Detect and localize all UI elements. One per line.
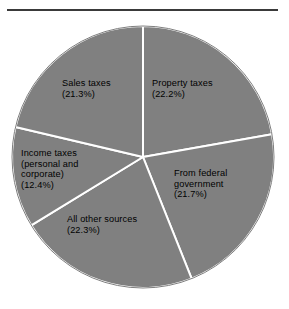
slice-label-all-other-sources: All other sources (22.3%) (67, 214, 137, 235)
slice-label-from-federal-government: From federal government (21.7%) (174, 168, 227, 200)
pie-chart-figure: Property taxes (22.2%) Sales taxes (21.3… (0, 0, 289, 309)
chart-plot-area: Property taxes (22.2%) Sales taxes (21.3… (0, 0, 289, 309)
slice-label-property-taxes: Property taxes (22.2%) (152, 78, 213, 99)
slice-label-sales-taxes: Sales taxes (21.3%) (62, 78, 111, 99)
slice-label-income-taxes: Income taxes (personal and corporate) (1… (21, 148, 78, 190)
